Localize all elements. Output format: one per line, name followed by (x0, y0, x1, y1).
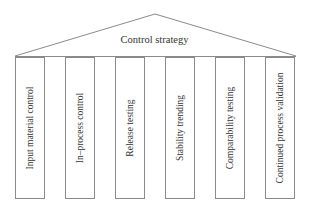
pillar-label: Input material control (25, 87, 35, 170)
pillar-label: Release testing (125, 99, 135, 156)
control-strategy-diagram: Control strategy Input material control … (0, 0, 309, 211)
pillar-label: In–process control (75, 93, 85, 163)
pillar-stability-trending: Stability trending (165, 57, 195, 199)
roof-label: Control strategy (0, 34, 309, 45)
pillar-label: Stability trending (175, 95, 185, 161)
pillar-input-material-control: Input material control (15, 57, 45, 199)
pillar-in-process-control: In–process control (65, 57, 95, 199)
pillar-release-testing: Release testing (115, 57, 145, 199)
pillar-continued-process-validation: Continued process validation (265, 57, 295, 199)
pillar-comparability-testing: Comparability testing (215, 57, 245, 199)
pillar-label: Continued process validation (275, 73, 285, 184)
pillar-label: Comparability testing (225, 87, 235, 170)
roof-shape (0, 0, 309, 211)
